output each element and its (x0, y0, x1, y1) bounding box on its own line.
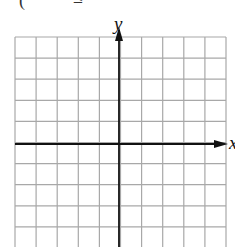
coordinate-grid (0, 0, 235, 247)
y-axis-label: y (114, 14, 122, 33)
graph-figure: ( ≤ y x (0, 0, 235, 247)
x-axis-label: x (229, 133, 235, 152)
